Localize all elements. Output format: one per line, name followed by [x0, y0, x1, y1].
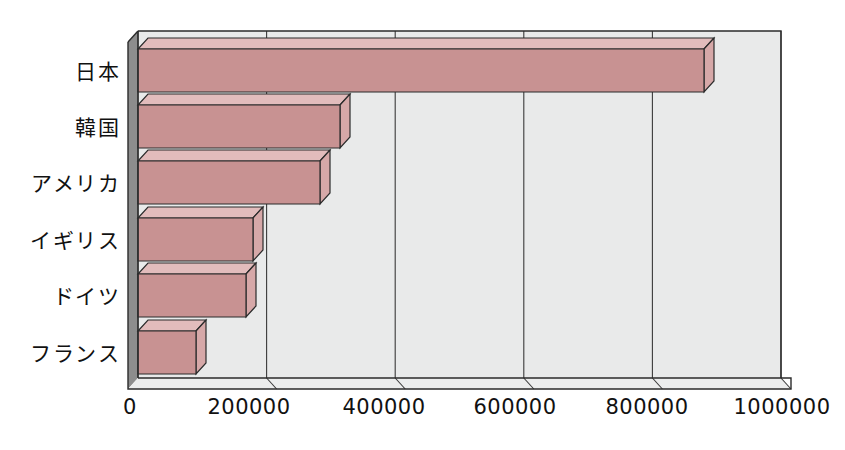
- bar-chart-svg: 日本 韓国 アメリカ イギリス ドイツ フランス 0 200000 400000…: [0, 0, 845, 450]
- bar-chart-container: 日本 韓国 アメリカ イギリス ドイツ フランス 0 200000 400000…: [0, 0, 845, 450]
- bar-usa[interactable]: [138, 150, 330, 204]
- bar-france[interactable]: [138, 320, 206, 374]
- category-label-germany: ドイツ: [53, 285, 121, 309]
- x-tick-label-600000: 600000: [473, 395, 556, 419]
- bar-korea[interactable]: [138, 94, 350, 148]
- bar-front-face: [138, 161, 320, 204]
- category-label-japan: 日本: [75, 60, 120, 84]
- bar-uk[interactable]: [138, 207, 263, 261]
- bar-front-face: [138, 49, 704, 92]
- category-label-korea: 韓国: [75, 116, 120, 140]
- plot-floor-base: [128, 378, 791, 389]
- x-axis-tick-labels: 0 200000 400000 600000 800000 1000000: [123, 395, 830, 419]
- bar-front-face: [138, 274, 246, 317]
- bar-front-face: [138, 218, 253, 261]
- bar-front-face: [138, 105, 340, 148]
- category-label-uk: イギリス: [30, 229, 120, 253]
- bar-top-face: [138, 263, 256, 274]
- category-labels: 日本 韓国 アメリカ イギリス ドイツ フランス: [30, 60, 120, 366]
- bar-japan[interactable]: [138, 38, 714, 92]
- bar-top-face: [138, 320, 206, 331]
- bar-top-face: [138, 150, 330, 161]
- x-tick-label-1000000: 1000000: [733, 395, 830, 419]
- bar-top-face: [138, 38, 714, 49]
- plot-left-wall: [128, 31, 138, 389]
- bar-top-face: [138, 207, 263, 218]
- bar-germany[interactable]: [138, 263, 256, 317]
- x-tick-label-800000: 800000: [605, 395, 688, 419]
- category-label-france: フランス: [30, 342, 120, 366]
- x-tick-label-400000: 400000: [342, 395, 425, 419]
- x-tick-label-200000: 200000: [207, 395, 290, 419]
- bar-front-face: [138, 331, 196, 374]
- x-tick-label-0: 0: [123, 395, 137, 419]
- category-label-usa: アメリカ: [31, 172, 120, 196]
- bar-top-face: [138, 94, 350, 105]
